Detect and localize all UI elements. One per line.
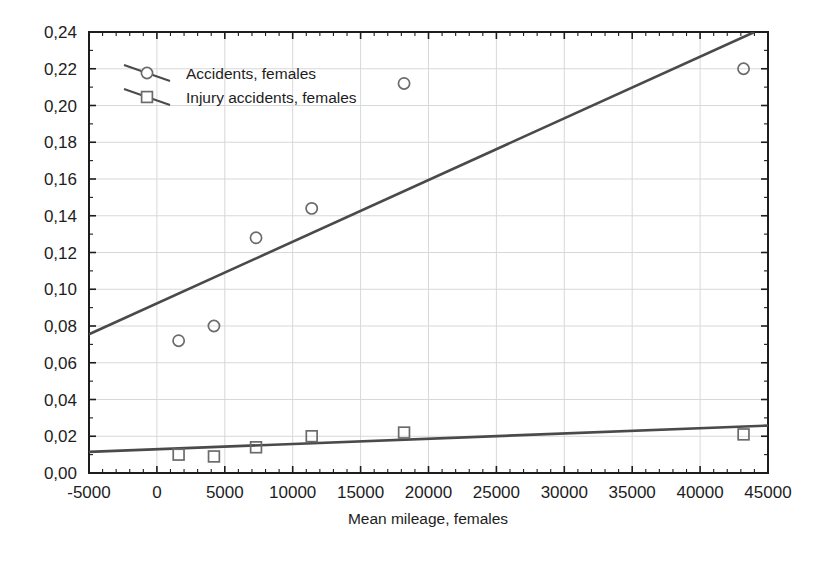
y-tick-label: 0,24 bbox=[44, 23, 77, 42]
x-tick-label: 5000 bbox=[206, 483, 244, 502]
x-tick-label: 35000 bbox=[609, 483, 656, 502]
legend-circle-marker bbox=[141, 67, 152, 78]
scatter-plot: -500005000100001500020000250003000035000… bbox=[0, 0, 829, 564]
x-tick-label: 45000 bbox=[744, 483, 791, 502]
y-tick-label: 0,20 bbox=[44, 97, 77, 116]
y-tick-label: 0,16 bbox=[44, 170, 77, 189]
y-tick-label: 0,22 bbox=[44, 60, 77, 79]
x-tick-label: 10000 bbox=[269, 483, 316, 502]
y-tick-label: 0,02 bbox=[44, 427, 77, 446]
x-tick-label: 40000 bbox=[676, 483, 723, 502]
y-tick-label: 0,10 bbox=[44, 280, 77, 299]
legend-label: Injury accidents, females bbox=[186, 89, 357, 106]
y-tick-label: 0,18 bbox=[44, 133, 77, 152]
y-tick-label: 0,12 bbox=[44, 244, 77, 263]
y-tick-label: 0,08 bbox=[44, 317, 77, 336]
y-tick-label: 0,14 bbox=[44, 207, 77, 226]
y-tick-label: 0,06 bbox=[44, 354, 77, 373]
y-tick-label: 0,00 bbox=[44, 464, 77, 483]
x-tick-label: 20000 bbox=[405, 483, 452, 502]
x-tick-label: 0 bbox=[152, 483, 161, 502]
chart-container: -500005000100001500020000250003000035000… bbox=[0, 0, 829, 564]
x-tick-label: 30000 bbox=[541, 483, 588, 502]
x-tick-label: 25000 bbox=[473, 483, 520, 502]
legend-label: Accidents, females bbox=[186, 65, 316, 82]
legend-square-marker bbox=[142, 92, 153, 103]
y-tick-label: 0,04 bbox=[44, 391, 77, 410]
x-axis-title: Mean mileage, females bbox=[348, 510, 508, 527]
x-tick-label: 15000 bbox=[337, 483, 384, 502]
chart-background bbox=[0, 0, 829, 564]
x-tick-label: -5000 bbox=[67, 483, 110, 502]
